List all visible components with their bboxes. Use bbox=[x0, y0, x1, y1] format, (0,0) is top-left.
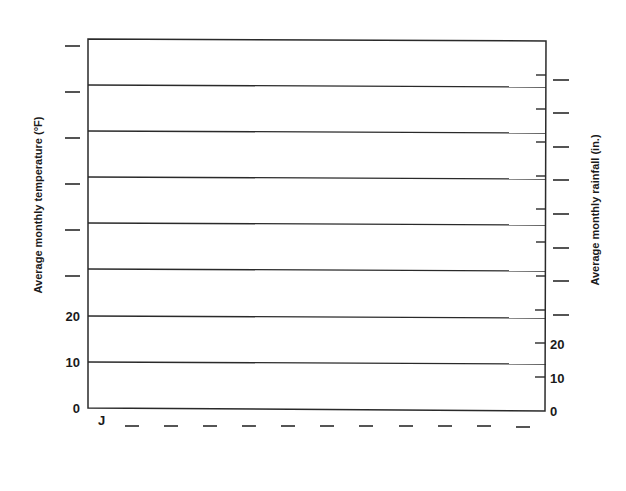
x-axis-labels: J bbox=[98, 413, 105, 428]
right-axis-ticks bbox=[535, 75, 546, 377]
right-tick-label: 20 bbox=[550, 337, 564, 352]
gridline bbox=[88, 269, 546, 271]
left-axis-title: Average monthly temperature (°F) bbox=[32, 116, 44, 293]
month-label-first: J bbox=[98, 413, 105, 428]
right-tick-label: 10 bbox=[550, 371, 564, 386]
left-axis-blank-labels bbox=[65, 46, 80, 276]
left-tick-label: 20 bbox=[66, 309, 80, 324]
left-axis-labels: 0 10 20 bbox=[66, 309, 80, 416]
climatogram-chart: 0 10 20 20 10 0 J bbox=[0, 0, 626, 491]
gridline bbox=[88, 177, 546, 179]
right-tick-label: 0 bbox=[550, 404, 557, 419]
gridlines bbox=[88, 85, 546, 364]
left-tick-label: 0 bbox=[73, 401, 80, 416]
gridline bbox=[88, 223, 546, 225]
right-axis-title: Average monthly rainfall (in.) bbox=[589, 134, 601, 286]
right-axis-labels: 20 10 0 bbox=[550, 337, 564, 419]
gridline bbox=[88, 362, 546, 364]
gridline bbox=[88, 316, 546, 318]
gridline bbox=[88, 131, 546, 133]
gridline bbox=[88, 85, 546, 87]
x-axis-blank-labels bbox=[125, 426, 530, 427]
left-tick-label: 10 bbox=[66, 355, 80, 370]
right-axis-blank-labels bbox=[553, 80, 569, 315]
